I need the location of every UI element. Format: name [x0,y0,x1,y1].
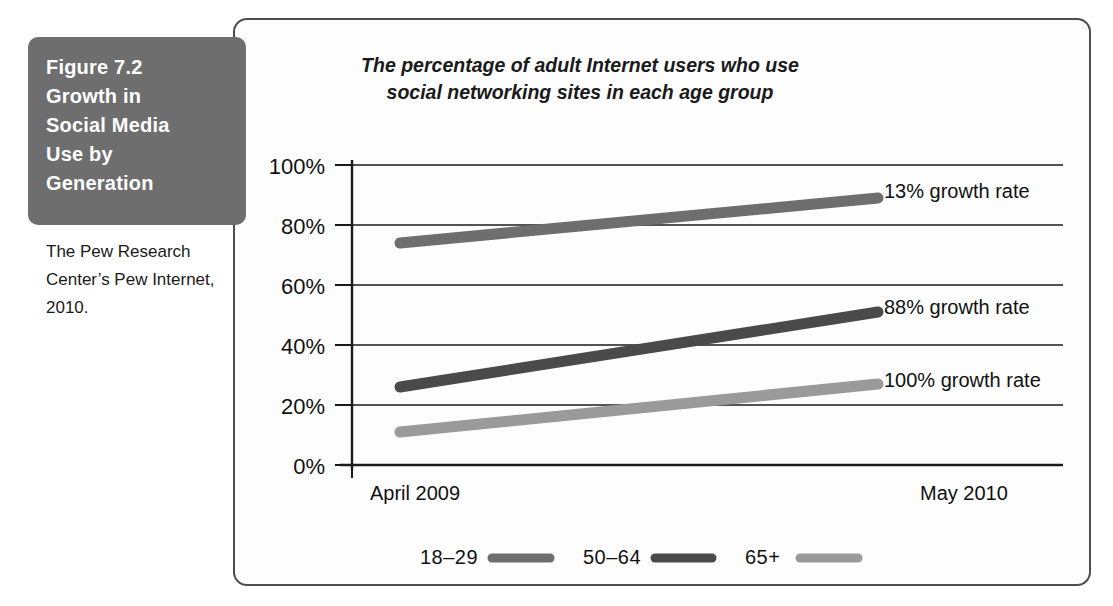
figure-source-caption: The Pew Research Center’s Pew Internet, … [46,238,236,322]
figure-label-line-5: Generation [46,169,232,198]
figure-label-line-1: Figure 7.2 [46,53,232,82]
figure-label-line-4: Use by [46,140,232,169]
chart-title: The percentage of adult Internet users w… [300,52,860,106]
chart-title-line-1: The percentage of adult Internet users w… [300,52,860,79]
figure-label-line-3: Social Media [46,111,232,140]
figure-label-block: Figure 7.2 Growth in Social Media Use by… [28,37,246,225]
chart-title-line-2: social networking sites in each age grou… [300,79,860,106]
figure-label-line-2: Growth in [46,82,232,111]
